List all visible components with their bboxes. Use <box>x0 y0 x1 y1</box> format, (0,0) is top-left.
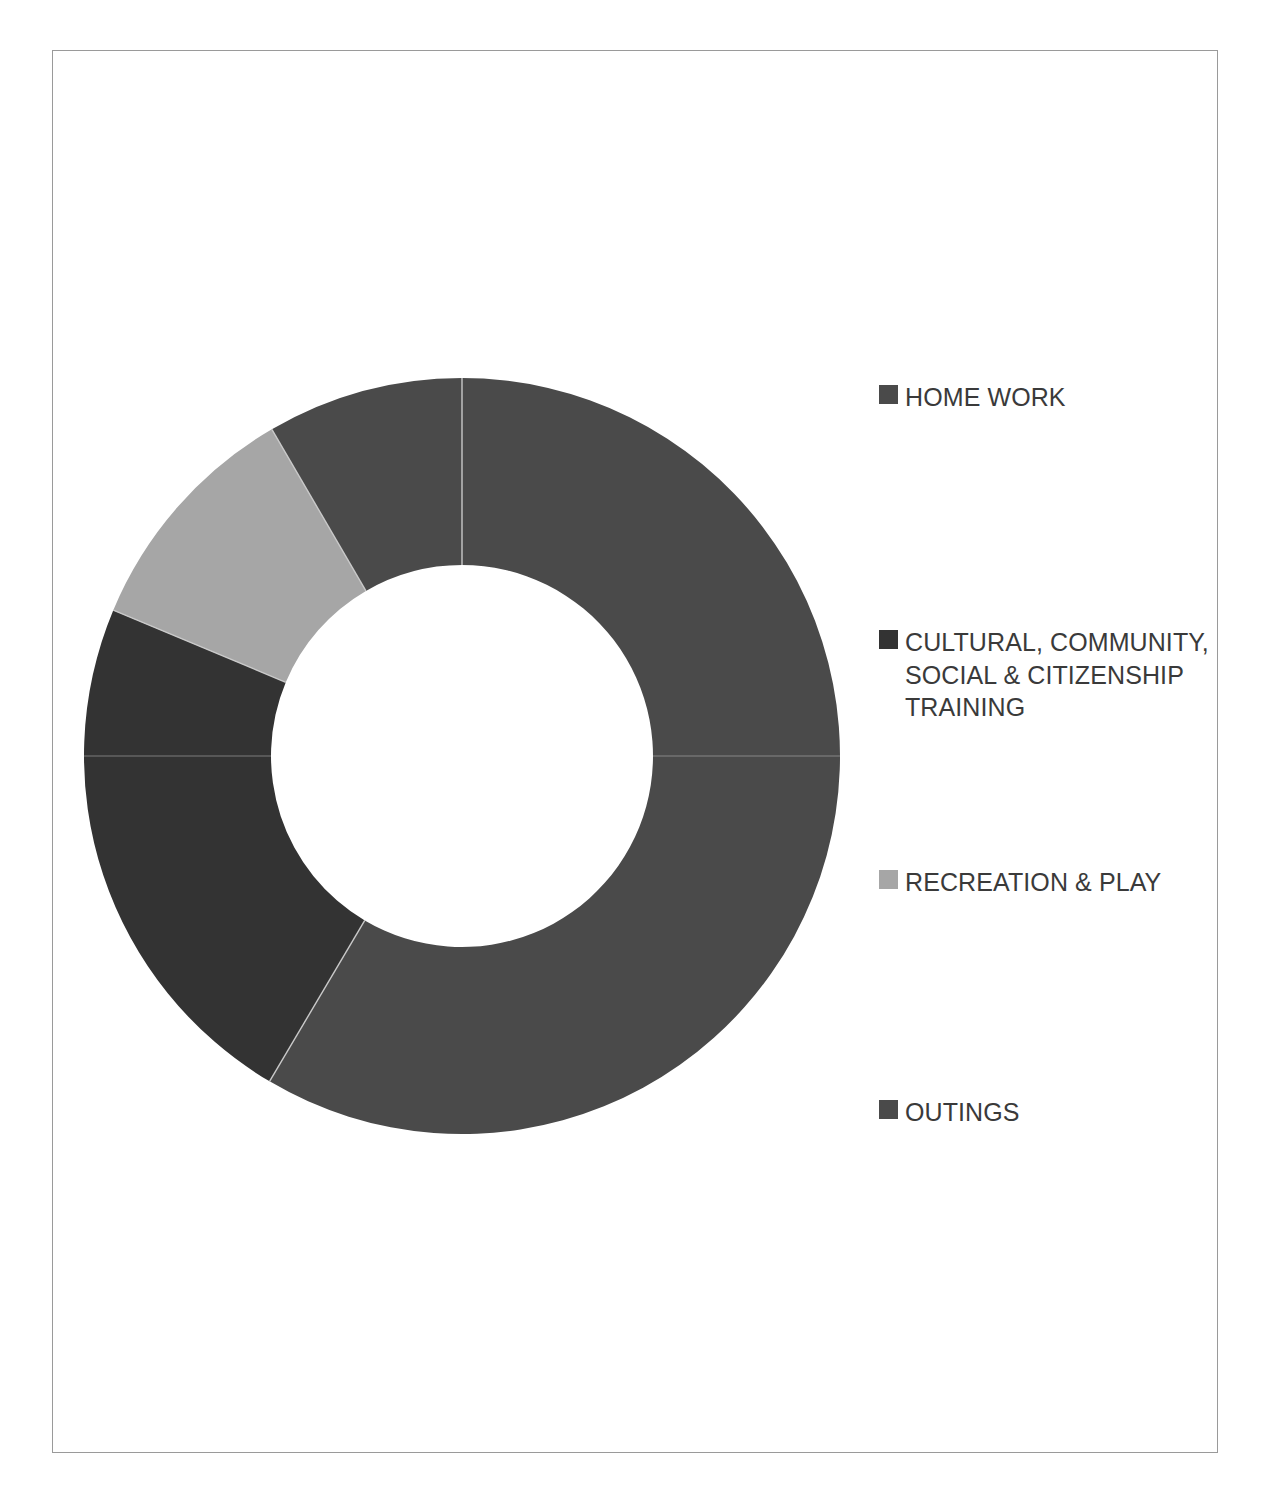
legend-item[interactable]: HOME WORK <box>879 381 1209 414</box>
legend-swatch-icon <box>879 870 898 889</box>
legend-item-label: RECREATION & PLAY <box>905 866 1161 899</box>
legend-item-label: HOME WORK <box>905 381 1066 414</box>
legend-swatch-icon <box>879 1100 898 1119</box>
chart-legend: HOME WORKCULTURAL, COMMUNITY, SOCIAL & C… <box>879 51 1209 1454</box>
chart-plot-area: HOME WORKCULTURAL, COMMUNITY, SOCIAL & C… <box>52 50 1218 1453</box>
legend-swatch-icon <box>879 630 898 649</box>
legend-item[interactable]: RECREATION & PLAY <box>879 866 1209 899</box>
legend-item-label: OUTINGS <box>905 1096 1020 1129</box>
legend-item-label: CULTURAL, COMMUNITY, SOCIAL & CITIZENSHI… <box>905 626 1209 724</box>
legend-item[interactable]: CULTURAL, COMMUNITY, SOCIAL & CITIZENSHI… <box>879 626 1209 724</box>
legend-item[interactable]: OUTINGS <box>879 1096 1209 1129</box>
legend-swatch-icon <box>879 385 898 404</box>
